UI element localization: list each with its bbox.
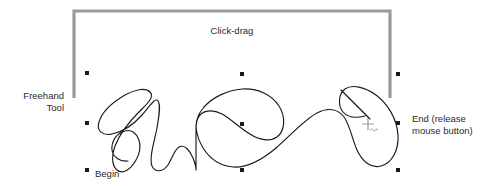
begin-label: Begin (95, 168, 119, 180)
handle-middle-left[interactable] (85, 121, 89, 125)
handle-bottom-left[interactable] (85, 168, 89, 172)
handle-top-right[interactable] (396, 72, 400, 76)
squiggle-icon (370, 129, 378, 131)
end-label: End (release mouse button) (412, 113, 492, 136)
handle-bottom-right[interactable] (396, 168, 400, 172)
handle-middle-center[interactable] (240, 122, 244, 126)
handle-middle-right[interactable] (396, 121, 400, 125)
freehand-cursor-icon (362, 118, 378, 131)
handle-top-center[interactable] (240, 72, 244, 76)
crosshair-icon (362, 118, 374, 130)
screenshot-root: Freehand Tool Click-drag Begin End (rele… (0, 0, 495, 186)
handle-top-left[interactable] (85, 71, 89, 75)
handle-bottom-center[interactable] (240, 168, 244, 172)
click-drag-label: Click-drag (176, 25, 288, 37)
freehand-path-group[interactable] (98, 87, 398, 172)
freehand-main-stroke[interactable] (98, 87, 398, 172)
freehand-tool-label: Freehand Tool (6, 90, 64, 113)
